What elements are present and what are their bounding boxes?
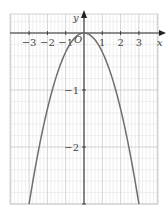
y-tick-label: −1 — [64, 85, 79, 96]
x-axis-label: x — [157, 37, 163, 48]
origin-label: O — [74, 34, 82, 45]
parabola-chart: −3−2−1123−1−2 x y O — [0, 0, 166, 215]
y-tick-label: −2 — [64, 142, 79, 153]
x-tick-label: 2 — [117, 37, 123, 48]
x-tick-label: −3 — [22, 37, 37, 48]
x-tick-label: −2 — [40, 37, 55, 48]
x-tick-label: 3 — [136, 37, 142, 48]
y-axis-label: y — [72, 12, 79, 23]
x-axis-arrow-icon — [159, 30, 166, 36]
